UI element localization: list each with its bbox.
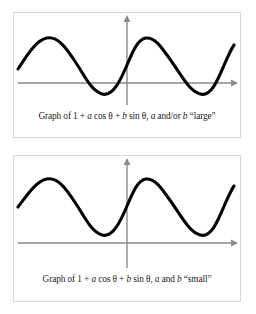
panel-graph-small: Graph of 1 + a cos θ + b sin θ, a and b …: [13, 155, 241, 302]
plot-svg-small: [14, 156, 240, 271]
caption-large-sin: sin θ,: [127, 111, 151, 121]
caption-large-prefix: Graph of 1 +: [38, 111, 87, 121]
figure-stack: Graph of 1 + a cos θ + b sin θ, a and/or…: [0, 0, 256, 314]
caption-large: Graph of 1 + a cos θ + b sin θ, a and/or…: [14, 109, 240, 122]
curve-large: [18, 38, 234, 95]
panel-graph-large: Graph of 1 + a cos θ + b sin θ, a and/or…: [13, 12, 241, 138]
y-axis-arrowhead-icon: [124, 158, 131, 165]
caption-small-suffix: “small”: [182, 274, 212, 284]
caption-small-sin: sin θ,: [131, 274, 155, 284]
caption-large-suffix: “large”: [187, 111, 215, 121]
caption-small-prefix: Graph of 1 +: [43, 274, 92, 284]
plot-svg-large: [14, 13, 240, 109]
caption-small: Graph of 1 + a cos θ + b sin θ, a and b …: [14, 271, 240, 285]
x-axis-arrowhead-icon: [231, 240, 238, 247]
caption-large-cos: cos θ +: [92, 111, 123, 121]
x-axis-arrowhead-icon: [231, 80, 238, 87]
caption-small-cos: cos θ +: [96, 274, 127, 284]
curve-small: [18, 179, 234, 236]
caption-large-mid: and/or: [155, 111, 183, 121]
plot-area-large: [14, 13, 240, 109]
caption-small-mid: and: [159, 274, 177, 284]
y-axis-arrowhead-icon: [124, 15, 131, 22]
plot-area-small: [14, 156, 240, 271]
